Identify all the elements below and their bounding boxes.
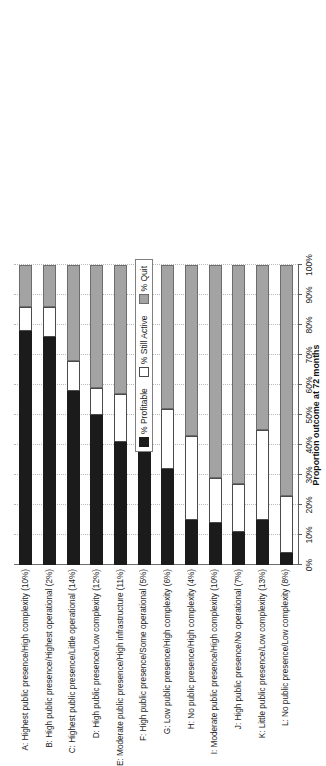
category-label: F: High public presence/Some operational… <box>140 569 148 741</box>
legend-label-profitable: % Profitable <box>140 388 149 434</box>
category-label: A: Highest public presence/High complexi… <box>22 569 30 751</box>
bar-row <box>185 265 198 565</box>
category-axis-labels: A: Highest public presence/High complexi… <box>14 569 298 691</box>
bar-segment <box>209 265 222 478</box>
bar-segment <box>185 520 198 565</box>
axis-tick <box>298 264 302 265</box>
axis-tick <box>298 414 302 415</box>
gray-square-icon <box>139 295 149 305</box>
bar-segment <box>90 265 103 388</box>
bar-row <box>280 265 293 565</box>
axis-tick <box>298 444 302 445</box>
bar-segment <box>209 523 222 565</box>
bar-segment <box>161 265 174 409</box>
bar-segment <box>256 520 269 565</box>
bar-segment <box>138 442 151 565</box>
bar-segment <box>185 436 198 520</box>
bar-row <box>114 265 127 565</box>
plot-area <box>14 265 298 565</box>
axis-tick <box>298 534 302 535</box>
bar-segment <box>114 394 127 442</box>
axis-tick <box>298 474 302 475</box>
bar-segment <box>280 496 293 553</box>
bar-segment <box>232 532 245 565</box>
category-label: H: No public presence/High complexity (4… <box>187 569 195 729</box>
bar-segment <box>185 265 198 436</box>
category-label: K: Little public presence/Low complexity… <box>258 569 266 738</box>
chart-legend: % Profitable % Still Active % Quit <box>135 259 153 452</box>
legend-item-quit: % Quit <box>139 266 149 305</box>
legend-item-profitable: % Profitable <box>139 388 149 447</box>
bar-segment <box>280 553 293 565</box>
bar-segment <box>161 469 174 565</box>
bar-segment <box>209 478 222 523</box>
bar-segment <box>43 307 56 337</box>
bar-segment <box>256 430 269 520</box>
category-label: G: Low public presence/High complexity (… <box>164 569 172 734</box>
axis-tick <box>298 324 302 325</box>
axis-tick <box>298 294 302 295</box>
bar-segment <box>232 484 245 532</box>
bar-row <box>256 265 269 565</box>
bar-segment <box>232 265 245 484</box>
bar-segment <box>67 391 80 565</box>
axis-tick <box>298 354 302 355</box>
bar-segment <box>67 265 80 361</box>
legend-item-still-active: % Still Active <box>139 316 149 378</box>
x-axis-title: Proportion outcome at 72 months <box>311 265 321 565</box>
black-square-icon <box>139 437 149 447</box>
bar-row <box>161 265 174 565</box>
bar-segment <box>67 361 80 391</box>
value-axis: 0%10%20%30%40%50%60%70%80%90%100% <box>298 265 299 565</box>
bar-row <box>209 265 222 565</box>
axis-tick <box>298 564 302 565</box>
category-label: B: High public presence/Highest operatio… <box>45 569 53 748</box>
bar-segment <box>161 409 174 469</box>
bar-segment <box>256 265 269 430</box>
category-label: C: Highest public presence/Little operat… <box>69 569 77 753</box>
category-label: D: High public presence/Low complexity (… <box>93 569 101 738</box>
bar-segment <box>114 265 127 394</box>
bar-segment <box>114 442 127 565</box>
category-label: L: No public presence/Low complexity (8%… <box>282 569 290 726</box>
bar-segment <box>19 265 32 307</box>
bar-row <box>90 265 103 565</box>
bar-segment <box>43 265 56 307</box>
bar-segment <box>90 388 103 415</box>
bar-segment <box>19 307 32 331</box>
category-label: E: Moderate public presence/High infrast… <box>116 569 124 766</box>
white-square-icon <box>139 367 149 377</box>
legend-label-quit: % Quit <box>140 266 149 292</box>
bar-segment <box>280 265 293 496</box>
axis-tick <box>298 504 302 505</box>
bar-row <box>67 265 80 565</box>
legend-label-still-active: % Still Active <box>140 316 149 365</box>
bar-segment <box>43 337 56 565</box>
bar-segment <box>19 331 32 565</box>
category-label: J: High public presence/No operational (… <box>235 569 243 729</box>
bar-row <box>43 265 56 565</box>
category-label: I: Moderate public presence/High complex… <box>211 569 219 754</box>
axis-tick <box>298 384 302 385</box>
bar-segment <box>90 415 103 565</box>
bar-row <box>232 265 245 565</box>
bar-row <box>19 265 32 565</box>
